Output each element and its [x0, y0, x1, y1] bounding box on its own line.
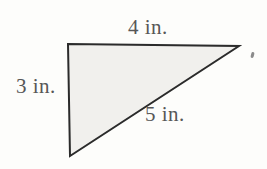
label-top-side: 4 in. [128, 17, 168, 38]
triangle-figure: 4 in. 3 in. 5 in. [0, 0, 267, 169]
label-hypotenuse: 5 in. [145, 104, 185, 125]
triangle-shape [68, 44, 239, 156]
label-left-side: 3 in. [16, 76, 56, 97]
